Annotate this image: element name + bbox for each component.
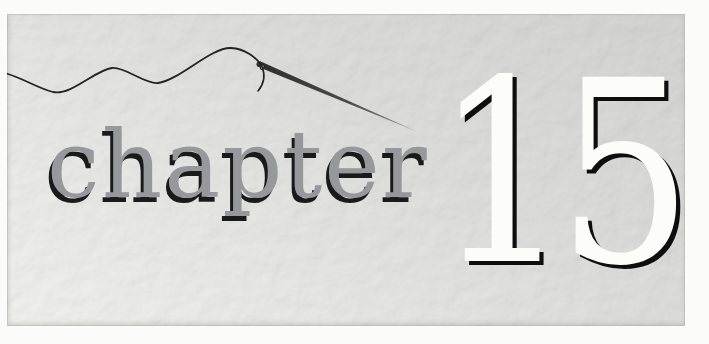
chapter-opener-page: chapter 15: [0, 0, 709, 344]
chapter-word: chapter: [47, 118, 429, 212]
thread: [7, 48, 262, 92]
thread-tail: [258, 67, 264, 91]
chapter-number: 15: [435, 48, 681, 300]
chapter-opener-panel: chapter 15: [7, 14, 685, 326]
